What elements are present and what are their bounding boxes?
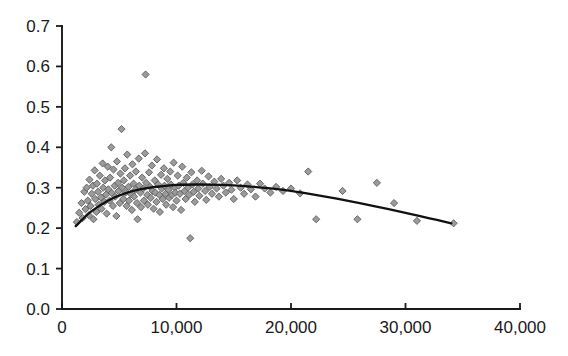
scatter-point <box>390 199 397 206</box>
scatter-point <box>129 161 136 168</box>
y-tick-label: 0.2 <box>26 219 50 238</box>
y-tick-label: 0.5 <box>26 98 50 117</box>
x-tick-label: 40,000 <box>494 318 546 337</box>
scatter-point-group <box>73 71 457 242</box>
scatter-point <box>413 217 420 224</box>
y-tick-label: 0.0 <box>26 300 50 319</box>
scatter-point <box>218 175 225 182</box>
scatter-point <box>339 187 346 194</box>
y-tick-label: 0.6 <box>26 57 50 76</box>
x-tick-label-group: 010,00020,00030,00040,000 <box>57 318 546 337</box>
scatter-point <box>150 205 157 212</box>
scatter-point <box>135 155 142 162</box>
scatter-point <box>91 167 98 174</box>
scatter-point <box>156 208 163 215</box>
scatter-point <box>191 198 198 205</box>
y-tick-label-group: 0.00.10.20.30.40.50.60.7 <box>26 17 50 319</box>
scatter-point <box>354 216 361 223</box>
scatter-point <box>141 150 148 157</box>
scatter-point <box>213 185 220 192</box>
scatter-point <box>234 177 241 184</box>
y-tick-label: 0.7 <box>26 17 50 36</box>
scatter-point <box>160 165 167 172</box>
scatter-point <box>208 190 215 197</box>
scatter-point <box>240 190 247 197</box>
scatter-point <box>313 216 320 223</box>
scatter-point <box>179 163 186 170</box>
chart-canvas: 0.00.10.20.30.40.50.60.7 010,00020,00030… <box>0 0 568 356</box>
scatter-point <box>153 156 160 163</box>
scatter-point <box>167 168 174 175</box>
axis-spines <box>62 26 520 309</box>
scatter-point <box>196 192 203 199</box>
scatter-point <box>198 167 205 174</box>
scatter-point <box>142 71 149 78</box>
scatter-point <box>86 176 93 183</box>
x-tick-label: 0 <box>57 318 66 337</box>
scatter-point <box>188 169 195 176</box>
y-tick-label: 0.1 <box>26 260 50 279</box>
scatter-point <box>103 210 110 217</box>
scatter-point <box>169 204 176 211</box>
scatter-point <box>145 169 152 176</box>
x-tick-label: 10,000 <box>151 318 203 337</box>
scatter-point <box>174 172 181 179</box>
scatter-point <box>305 168 312 175</box>
scatter-point <box>117 170 124 177</box>
scatter-point <box>127 172 134 179</box>
scatter-point <box>252 193 259 200</box>
scatter-point <box>134 216 141 223</box>
x-tick-label: 20,000 <box>265 318 317 337</box>
scatter-point <box>203 196 210 203</box>
scatter-point <box>96 172 103 179</box>
scatter-point <box>132 168 139 175</box>
scatter-plot-figure: 0.00.10.20.30.40.50.60.7 010,00020,00030… <box>0 0 568 356</box>
scatter-point <box>205 173 212 180</box>
scatter-point <box>121 165 128 172</box>
scatter-point <box>113 212 120 219</box>
scatter-point <box>108 144 115 151</box>
scatter-point <box>148 162 155 169</box>
scatter-point <box>170 159 177 166</box>
scatter-point <box>187 235 194 242</box>
scatter-point <box>113 158 120 165</box>
scatter-point <box>118 125 125 132</box>
scatter-point <box>215 193 222 200</box>
scatter-point <box>373 179 380 186</box>
scatter-point <box>177 206 184 213</box>
scatter-point <box>157 171 164 178</box>
y-tick-label: 0.4 <box>26 138 50 157</box>
scatter-point <box>267 189 274 196</box>
scatter-point <box>124 151 131 158</box>
scatter-point <box>230 195 237 202</box>
x-tick-label: 30,000 <box>380 318 432 337</box>
scatter-point <box>173 197 180 204</box>
y-tick-label: 0.3 <box>26 179 50 198</box>
